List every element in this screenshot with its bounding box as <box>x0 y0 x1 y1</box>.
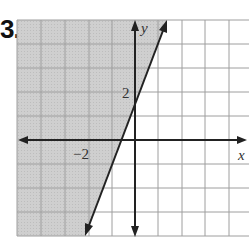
x-tick-label: −2 <box>73 146 89 162</box>
x-axis-label: x <box>237 147 245 163</box>
shaded-region <box>17 20 167 236</box>
coordinate-graph: y x −2 2 <box>0 0 249 248</box>
y-axis-label: y <box>139 20 148 36</box>
y-tick-label: 2 <box>122 85 130 101</box>
